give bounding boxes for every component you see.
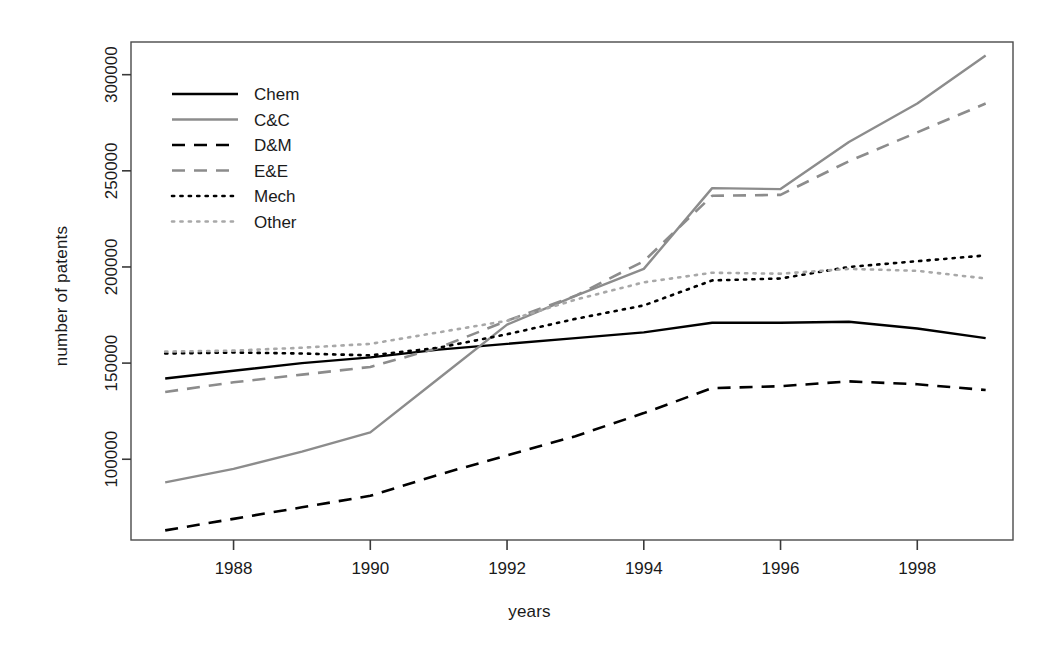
y-axis-title: number of patents <box>52 206 72 386</box>
series-line-chem <box>165 322 985 379</box>
y-axis-tick-label: 150000 <box>102 335 121 392</box>
legend-label-c-c: C&C <box>254 111 290 130</box>
y-axis-tick-label: 300000 <box>102 46 121 103</box>
y-axis-tick-label: 250000 <box>102 142 121 199</box>
x-axis-tick-label: 1990 <box>351 559 389 578</box>
y-axis-tick-label: 100000 <box>102 431 121 488</box>
x-axis-tick-label: 1988 <box>215 559 253 578</box>
legend-label-mech: Mech <box>254 187 296 206</box>
x-axis-tick-label: 1992 <box>488 559 526 578</box>
legend-label-d-m: D&M <box>254 136 292 155</box>
legend-label-chem: Chem <box>254 85 299 104</box>
x-axis-tick-label: 1994 <box>625 559 663 578</box>
plot-area: 1000001500002000002500003000001988199019… <box>0 0 1059 656</box>
legend-label-other: Other <box>254 213 297 232</box>
x-axis-tick-label: 1996 <box>762 559 800 578</box>
x-axis-title: years <box>0 602 1059 622</box>
legend-label-e-e: E&E <box>254 162 288 181</box>
x-axis-tick-label: 1998 <box>898 559 936 578</box>
y-axis-tick-label: 200000 <box>102 239 121 296</box>
patents-line-chart: 1000001500002000002500003000001988199019… <box>0 0 1059 656</box>
